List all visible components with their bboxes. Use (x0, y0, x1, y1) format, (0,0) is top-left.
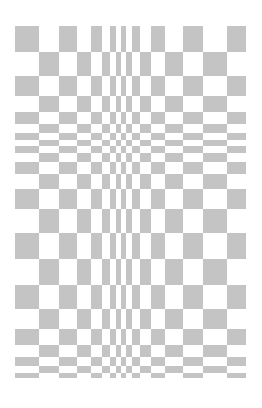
light-square (203, 162, 227, 174)
light-square (140, 146, 151, 153)
light-square (132, 309, 140, 329)
dark-square (91, 76, 102, 96)
dark-square (39, 174, 59, 190)
light-square (39, 146, 59, 153)
light-square (165, 373, 183, 378)
dark-square (132, 357, 140, 366)
light-square (102, 373, 110, 378)
dark-square (165, 124, 183, 133)
light-square (203, 76, 227, 96)
dark-square (183, 133, 203, 140)
light-square (227, 309, 246, 329)
dark-square (183, 357, 203, 366)
light-square (203, 112, 227, 124)
dark-square (132, 162, 140, 174)
light-square (203, 233, 227, 259)
dark-square (183, 26, 203, 52)
light-square (140, 357, 151, 366)
dark-square (91, 162, 102, 174)
light-square (39, 112, 59, 124)
dark-square (203, 345, 227, 357)
light-square (132, 174, 140, 190)
dark-square (203, 124, 227, 133)
light-square (183, 96, 203, 112)
light-square (15, 345, 39, 357)
dark-square (151, 146, 165, 153)
dark-square (140, 345, 151, 357)
dark-square (140, 96, 151, 112)
light-square (102, 285, 110, 309)
dark-square (39, 259, 59, 285)
dark-square (227, 146, 246, 153)
light-square (151, 209, 165, 233)
dark-square (102, 96, 110, 112)
dark-square (140, 209, 151, 233)
dark-square (15, 285, 39, 309)
light-square (77, 329, 91, 345)
light-square (132, 259, 140, 285)
dark-square (183, 146, 203, 153)
light-square (165, 357, 183, 366)
dark-square (59, 112, 77, 124)
light-square (183, 366, 203, 373)
checkerboard-grid (15, 26, 246, 378)
dark-square (165, 96, 183, 112)
dark-square (77, 309, 91, 329)
light-square (15, 309, 39, 329)
dark-square (102, 209, 110, 233)
light-square (102, 329, 110, 345)
dark-square (151, 76, 165, 96)
dark-square (165, 366, 183, 373)
dark-square (15, 357, 39, 366)
light-square (15, 259, 39, 285)
dark-square (15, 146, 39, 153)
light-square (227, 96, 246, 112)
dark-square (15, 329, 39, 345)
dark-square (132, 133, 140, 140)
dark-square (132, 189, 140, 209)
light-square (59, 259, 77, 285)
dark-square (59, 329, 77, 345)
dark-square (132, 26, 140, 52)
dark-square (183, 76, 203, 96)
light-square (132, 345, 140, 357)
light-square (77, 189, 91, 209)
light-square (140, 329, 151, 345)
light-square (165, 233, 183, 259)
dark-square (15, 76, 39, 96)
light-square (39, 162, 59, 174)
light-square (77, 285, 91, 309)
dark-square (203, 174, 227, 190)
dark-square (77, 209, 91, 233)
dark-square (39, 209, 59, 233)
light-square (15, 366, 39, 373)
light-square (91, 153, 102, 162)
light-square (102, 112, 110, 124)
light-square (102, 146, 110, 153)
light-square (91, 96, 102, 112)
dark-square (39, 366, 59, 373)
dark-square (203, 309, 227, 329)
dark-square (183, 329, 203, 345)
dark-square (59, 189, 77, 209)
dark-square (15, 162, 39, 174)
light-square (59, 174, 77, 190)
dark-square (132, 146, 140, 153)
dark-square (151, 189, 165, 209)
dark-square (151, 26, 165, 52)
dark-square (227, 357, 246, 366)
dark-square (39, 345, 59, 357)
light-square (77, 26, 91, 52)
dark-square (140, 124, 151, 133)
light-square (227, 52, 246, 76)
light-square (165, 329, 183, 345)
dark-square (132, 329, 140, 345)
light-square (165, 133, 183, 140)
dark-square (102, 52, 110, 76)
dark-square (91, 329, 102, 345)
light-square (227, 345, 246, 357)
light-square (132, 96, 140, 112)
dark-square (183, 233, 203, 259)
dark-square (227, 285, 246, 309)
light-square (77, 146, 91, 153)
